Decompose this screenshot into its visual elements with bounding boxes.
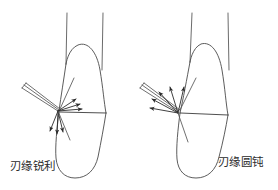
caption-right: 刃缘圆钝: [218, 155, 264, 169]
dental-comparison-figure: 刃缘锐利 刃缘圆钝: [0, 0, 278, 190]
caption-left: 刃缘锐利: [10, 159, 56, 173]
figure-root: 刃缘锐利 刃缘圆钝: [0, 0, 278, 190]
